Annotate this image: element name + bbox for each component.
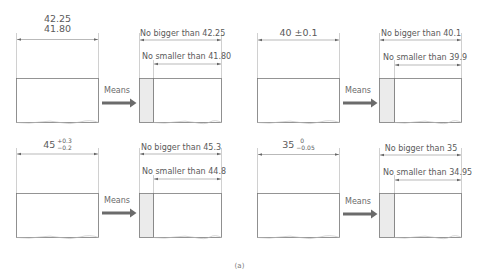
lower-deviation: −0.05 xyxy=(296,145,314,152)
min-label: No smaller than 39.9 xyxy=(383,54,463,62)
panel-plus-minus: 40 ±0.1 Means No bigger than 40.1 No sma… xyxy=(240,0,479,120)
part-block xyxy=(395,194,462,238)
tolerance-zone xyxy=(380,194,395,238)
tolerance-dimension: 45 +0.3 −0.2 xyxy=(16,138,99,151)
figure-caption: (a) xyxy=(0,262,479,270)
means-label: Means xyxy=(104,86,130,95)
limit-dimension: 42.25 41.80 xyxy=(16,14,99,34)
max-label: No bigger than 40.1 xyxy=(380,30,462,38)
nominal-value: 35 xyxy=(282,139,294,150)
max-label: No bigger than 42.25 xyxy=(140,30,222,38)
panel-asymmetric-tolerance: 45 +0.3 −0.2 Means No bigger than 45.3 N… xyxy=(0,115,239,235)
means-label: Means xyxy=(104,196,130,205)
panel-drawing xyxy=(240,115,479,245)
max-label: No bigger than 35 xyxy=(380,145,462,153)
panel-limits: 42.25 41.80 Means No bigger than 42.25 N… xyxy=(0,0,239,120)
lower-deviation: −0.2 xyxy=(57,145,72,152)
means-label: Means xyxy=(345,86,371,95)
panel-drawing xyxy=(0,115,239,245)
tolerance-dimension: 35 0 −0.05 xyxy=(257,138,340,151)
panel-unilateral-tolerance: 35 0 −0.05 Means No bigger than 35 No sm… xyxy=(240,115,479,235)
min-label: No smaller than 44.8 xyxy=(142,168,222,176)
min-label: No smaller than 41.80 xyxy=(142,53,222,61)
min-label: No smaller than 34.95 xyxy=(383,169,463,177)
tolerance-zone xyxy=(140,194,154,238)
part-block xyxy=(154,194,222,238)
panel-drawing xyxy=(240,0,479,130)
nominal-value: 45 xyxy=(43,139,55,150)
means-label: Means xyxy=(345,197,371,206)
max-label: No bigger than 45.3 xyxy=(140,144,222,152)
lower-limit: 41.80 xyxy=(44,24,71,34)
part-block xyxy=(17,194,99,238)
tolerance-values: 0 −0.05 xyxy=(296,138,314,151)
tolerance-values: +0.3 −0.2 xyxy=(57,138,72,151)
part-block xyxy=(258,194,340,238)
plus-minus-dimension: 40 ±0.1 xyxy=(257,28,340,38)
